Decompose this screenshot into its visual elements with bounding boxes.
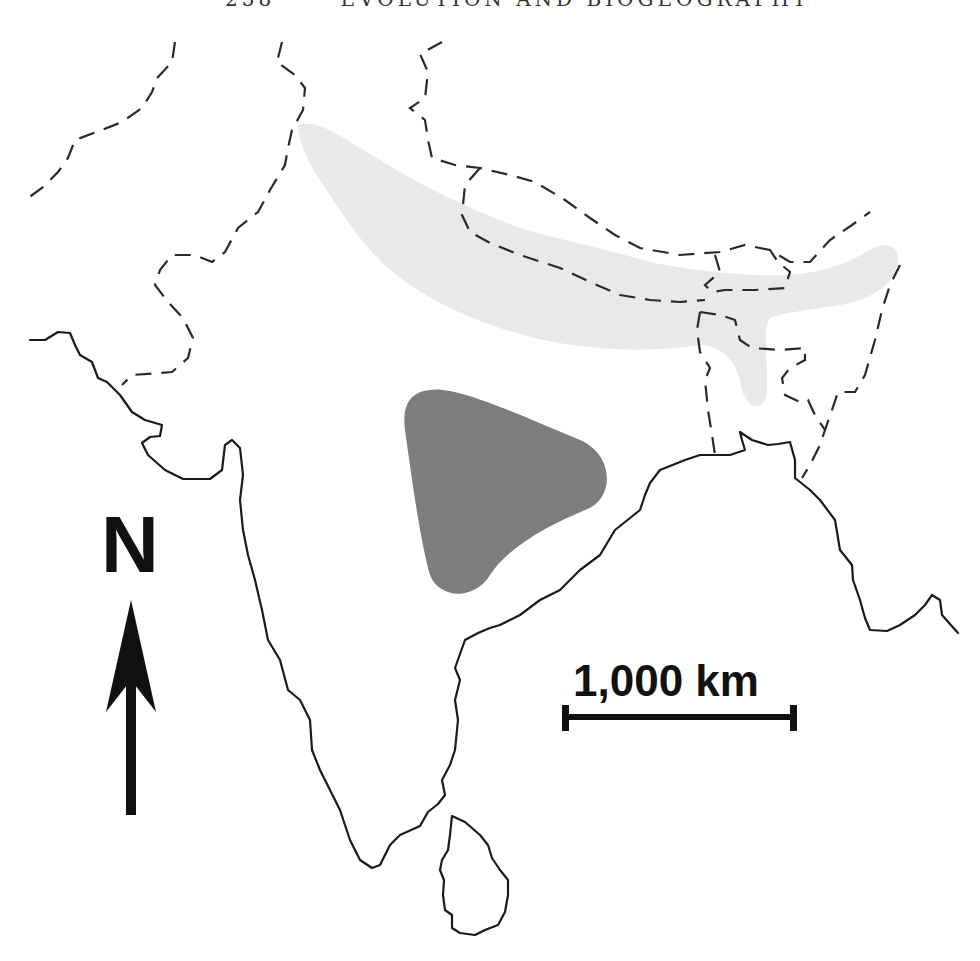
border-afghanistan-pakistan — [28, 42, 175, 198]
scale-bar-label: 1,000 km — [573, 656, 759, 706]
north-arrow-icon — [106, 600, 156, 815]
central-india-range-area — [404, 389, 607, 593]
north-label: N — [101, 505, 159, 585]
scale-bar — [562, 705, 797, 731]
coastline-sri-lanka — [440, 816, 508, 935]
himalayan-range-area — [298, 124, 898, 406]
border-pakistan-india — [122, 42, 305, 385]
map-canvas — [0, 0, 980, 961]
